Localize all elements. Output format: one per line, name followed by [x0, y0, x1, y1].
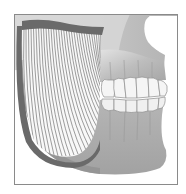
frame-contents: [14, 14, 178, 174]
lower-teeth: [101, 97, 165, 113]
illustration-canvas: Lateral view of the lower face showing t…: [0, 0, 186, 194]
upper-teeth: [101, 77, 167, 98]
masseter-illustration: [0, 0, 186, 194]
